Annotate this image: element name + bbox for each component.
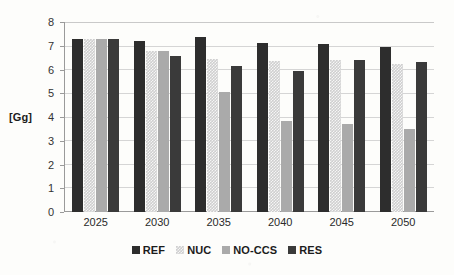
bar xyxy=(219,92,230,212)
legend-item-nuc[interactable]: NUC xyxy=(176,244,211,256)
bar xyxy=(293,71,304,212)
x-axis-tick-label: 2035 xyxy=(188,216,250,228)
y-axis-tick-mark xyxy=(60,46,64,47)
bar xyxy=(380,47,391,212)
y-axis-tick-label: 7 xyxy=(32,40,54,52)
bar xyxy=(416,62,427,212)
legend-swatch-icon xyxy=(132,246,140,254)
bar xyxy=(84,39,95,212)
x-axis-tick-label: 2040 xyxy=(250,216,312,228)
bar xyxy=(72,39,83,212)
bar xyxy=(170,56,181,212)
y-axis-tick-mark xyxy=(60,70,64,71)
legend-item-res[interactable]: RES xyxy=(288,244,322,256)
bar xyxy=(96,39,107,212)
y-axis-tick-label: 1 xyxy=(32,182,54,194)
y-axis-tick-label: 0 xyxy=(32,206,54,218)
bar xyxy=(392,64,403,212)
y-axis-tick-label: 6 xyxy=(32,64,54,76)
legend-label: RES xyxy=(299,244,322,256)
y-axis-tick-mark xyxy=(60,212,64,213)
x-axis-tick-label: 2045 xyxy=(311,216,373,228)
bar xyxy=(318,44,329,212)
y-axis-tick-label: 8 xyxy=(32,16,54,28)
legend-item-ref[interactable]: REF xyxy=(132,244,165,256)
bar xyxy=(281,121,292,212)
x-axis-tick-label: 2050 xyxy=(373,216,435,228)
bar-group xyxy=(311,22,373,212)
x-axis-tick-label: 2025 xyxy=(65,216,127,228)
bar xyxy=(146,51,157,212)
bar xyxy=(158,51,169,212)
x-axis-labels: 202520302035204020452050 xyxy=(65,216,434,228)
bar xyxy=(330,60,341,212)
bar xyxy=(207,59,218,212)
bar xyxy=(404,129,415,212)
y-axis-tick-label: 4 xyxy=(32,111,54,123)
y-axis-tick-mark xyxy=(60,188,64,189)
y-axis-tick-label: 5 xyxy=(32,87,54,99)
y-axis-title: [Gg] xyxy=(9,111,32,123)
y-axis-tick-mark xyxy=(60,93,64,94)
legend-swatch-icon xyxy=(288,246,296,254)
bar xyxy=(231,66,242,212)
bar xyxy=(134,41,145,212)
bar-group xyxy=(65,22,127,212)
bar xyxy=(257,43,268,212)
y-axis-tick-mark xyxy=(60,117,64,118)
y-axis-tick-mark xyxy=(60,165,64,166)
bar-group xyxy=(373,22,435,212)
chart-legend: REFNUCNO-CCSRES xyxy=(0,244,454,256)
y-axis-tick-mark xyxy=(60,22,64,23)
bar xyxy=(342,124,353,212)
legend-label: NO-CCS xyxy=(233,244,277,256)
bar xyxy=(195,37,206,212)
x-axis-tick-label: 2030 xyxy=(127,216,189,228)
bar xyxy=(108,39,119,212)
bar-group xyxy=(188,22,250,212)
bar-groups xyxy=(65,22,434,212)
y-axis-tick-label: 3 xyxy=(32,135,54,147)
legend-label: NUC xyxy=(187,244,211,256)
bar xyxy=(354,60,365,212)
legend-label: REF xyxy=(143,244,165,256)
legend-item-no-ccs[interactable]: NO-CCS xyxy=(222,244,277,256)
bar xyxy=(269,61,280,212)
y-axis-tick-label: 2 xyxy=(32,159,54,171)
bar-group xyxy=(127,22,189,212)
legend-swatch-icon xyxy=(222,246,230,254)
y-axis-tick-mark xyxy=(60,141,64,142)
legend-swatch-icon xyxy=(176,246,184,254)
bar-group xyxy=(250,22,312,212)
bar-chart: [Gg] 876543210 202520302035204020452050 … xyxy=(0,0,454,275)
